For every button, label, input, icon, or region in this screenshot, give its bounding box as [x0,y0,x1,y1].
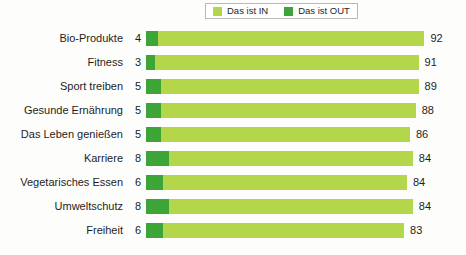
row-in-value: 92 [424,33,442,44]
bar-segment-in [169,151,413,166]
row-in-value: 91 [419,57,437,68]
legend-entry-out: Das ist OUT [284,6,350,16]
row-in-value: 83 [404,225,422,236]
row-out-value: 5 [123,81,146,92]
row-category-label: Vegetarisches Essen [0,177,123,188]
row-in-value: 84 [407,177,425,188]
legend-label-out: Das ist OUT [298,6,350,16]
chart-row: Bio-Produkte492 [0,26,466,50]
row-category-label: Fitness [0,57,123,68]
stacked-bar [146,31,424,46]
bar-segment-out [146,223,163,238]
row-out-value: 8 [123,201,146,212]
stacked-bar [146,223,404,238]
row-out-value: 5 [123,105,146,116]
legend-entry-in: Das ist IN [213,6,268,16]
stacked-bar [146,127,410,142]
stacked-bar [146,103,416,118]
row-category-label: Umweltschutz [0,201,123,212]
bar-segment-out [146,199,169,214]
bar-segment-in [161,103,416,118]
chart-row: Freiheit683 [0,218,466,242]
bar-segment-out [146,79,161,94]
row-category-label: Gesunde Ernährung [0,105,123,116]
chart-row: Karriere884 [0,146,466,170]
row-out-value: 6 [123,225,146,236]
row-category-label: Sport treiben [0,81,123,92]
row-in-value: 88 [416,105,434,116]
row-in-value: 84 [413,153,431,164]
bar-segment-in [163,175,407,190]
legend-label-in: Das ist IN [227,6,268,16]
row-out-value: 5 [123,129,146,140]
row-in-value: 89 [419,81,437,92]
chart-row: Sport treiben589 [0,74,466,98]
bar-segment-out [146,151,169,166]
bar-segment-in [155,55,419,70]
row-in-value: 86 [410,129,428,140]
bar-segment-in [158,31,425,46]
chart-row: Fitness391 [0,50,466,74]
stacked-bar [146,199,413,214]
bar-segment-out [146,127,161,142]
stacked-bar [146,55,419,70]
row-out-value: 4 [123,33,146,44]
row-out-value: 3 [123,57,146,68]
stacked-bar-chart: Das ist IN Das ist OUT Bio-Produkte492Fi… [0,0,466,255]
chart-row: Vegetarisches Essen684 [0,170,466,194]
bar-segment-in [161,79,419,94]
chart-rows: Bio-Produkte492Fitness391Sport treiben58… [0,26,466,242]
row-category-label: Bio-Produkte [0,33,123,44]
chart-legend: Das ist IN Das ist OUT [205,3,358,19]
chart-row: Umweltschutz884 [0,194,466,218]
legend-swatch-in-icon [213,7,222,16]
row-category-label: Freiheit [0,225,123,236]
chart-row: Das Leben genießen586 [0,122,466,146]
row-out-value: 6 [123,177,146,188]
stacked-bar [146,175,407,190]
row-category-label: Karriere [0,153,123,164]
stacked-bar [146,151,413,166]
row-category-label: Das Leben genießen [0,129,123,140]
bar-segment-out [146,55,155,70]
bar-segment-in [169,199,413,214]
bar-segment-out [146,175,163,190]
row-in-value: 84 [413,201,431,212]
bar-segment-in [163,223,404,238]
chart-row: Gesunde Ernährung588 [0,98,466,122]
row-out-value: 8 [123,153,146,164]
legend-swatch-out-icon [284,7,293,16]
bar-segment-out [146,103,161,118]
stacked-bar [146,79,419,94]
bar-segment-out [146,31,158,46]
bar-segment-in [161,127,410,142]
